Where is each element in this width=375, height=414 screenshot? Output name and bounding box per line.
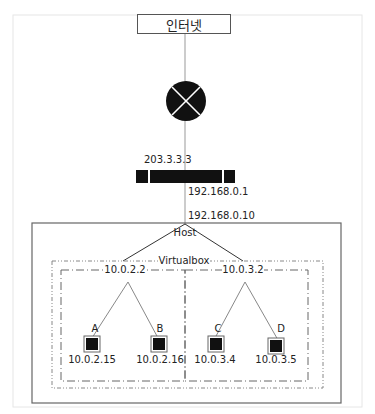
internet-node: 인터넷 <box>137 14 231 34</box>
virtualbox-label: Virtualbox <box>159 255 210 267</box>
host-box <box>32 223 341 403</box>
computer-icon-b <box>151 336 167 352</box>
vm-d-ip: 10.0.3.5 <box>255 354 296 366</box>
diagram-canvas <box>0 0 375 414</box>
network-diagram: 인터넷 203.3.3.3 192.168.0.1 192.168.0.10 H… <box>0 0 375 414</box>
internet-label: 인터넷 <box>166 15 202 34</box>
gateway-bar-icon <box>136 170 235 183</box>
vm-b-name: B <box>157 323 164 335</box>
net2-gateway-label: 10.0.3.2 <box>222 264 263 276</box>
host-label: Host <box>174 227 197 239</box>
vm-b-ip: 10.0.2.16 <box>136 354 184 366</box>
vm-a-name: A <box>92 323 99 335</box>
wan-ip-label: 203.3.3.3 <box>144 154 192 166</box>
net2-link-d <box>245 282 278 340</box>
lan-ip-label: 192.168.0.1 <box>188 186 248 198</box>
vm-c-name: C <box>215 323 222 335</box>
computer-icon-d <box>268 338 284 354</box>
net1-link-b <box>128 282 158 338</box>
vm-d-name: D <box>277 323 285 335</box>
router-x-icon <box>166 81 206 121</box>
net1-gateway-label: 10.0.2.2 <box>104 264 145 276</box>
computer-icon-a <box>84 336 100 352</box>
vm-a-ip: 10.0.2.15 <box>68 354 116 366</box>
computer-icon-c <box>208 336 224 352</box>
host-ip-label: 192.168.0.10 <box>188 210 255 222</box>
vm-c-ip: 10.0.3.4 <box>194 354 235 366</box>
